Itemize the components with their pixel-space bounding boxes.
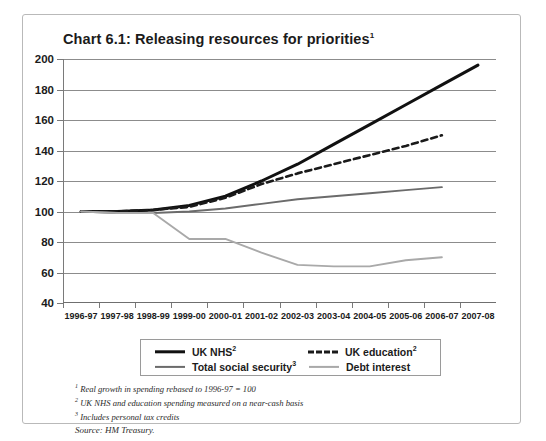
- y-axis-label: 80: [41, 236, 54, 248]
- y-axis-label: 140: [35, 145, 54, 157]
- legend-swatch-total-social-security: [155, 361, 185, 372]
- legend-swatch-debt-interest: [309, 361, 339, 372]
- series-lines: [63, 59, 496, 303]
- chart-title-text: Chart 6.1: Releasing resources for prior…: [63, 31, 370, 47]
- chart-footnotes: 1 Real growth in spending rebased to 199…: [75, 381, 303, 436]
- x-axis-label: 1996-97: [65, 311, 98, 321]
- series-line-total-social-security: [81, 187, 442, 213]
- y-axis-label: 120: [35, 175, 54, 187]
- legend-item-uk-nhs[interactable]: UK NHS2: [141, 345, 290, 358]
- footnote-2: 2 UK NHS and education spending measured…: [75, 395, 303, 409]
- x-axis-label: 1998-99: [137, 311, 170, 321]
- x-axis-label: 2005-06: [389, 311, 422, 321]
- y-axis-label: 160: [35, 114, 54, 126]
- plot-area: 4060801001201401601802001996-971997-9819…: [63, 59, 496, 303]
- x-axis-label: 2007-08: [461, 311, 494, 321]
- legend-item-uk-education[interactable]: UK education2: [290, 345, 440, 358]
- legend-swatch-uk-education: [308, 346, 338, 357]
- chart-title: Chart 6.1: Releasing resources for prior…: [63, 31, 374, 47]
- y-axis-tick: [57, 273, 63, 274]
- x-axis-label: 1999-00: [173, 311, 206, 321]
- x-axis-label: 2000-01: [209, 311, 242, 321]
- legend-row: Total social security3 Debt interest: [141, 359, 440, 374]
- series-line-debt-interest: [81, 212, 442, 267]
- x-axis-tick: [135, 303, 136, 308]
- y-axis-tick: [57, 90, 63, 91]
- legend-item-debt-interest[interactable]: Debt interest: [291, 360, 440, 373]
- chart-legend: UK NHS2 UK education2 Total social secur…: [140, 339, 441, 376]
- x-axis-tick: [424, 303, 425, 308]
- x-axis-tick: [63, 303, 64, 308]
- x-axis-label: 1997-98: [101, 311, 134, 321]
- y-axis-tick: [57, 212, 63, 213]
- y-axis-tick: [57, 242, 63, 243]
- y-axis-tick: [57, 59, 63, 60]
- y-axis-label: 60: [41, 267, 54, 279]
- chart-figure: Chart 6.1: Releasing resources for prior…: [22, 14, 521, 424]
- x-axis-tick: [352, 303, 353, 308]
- x-axis-label: 2004-05: [353, 311, 386, 321]
- x-axis-label: 2006-07: [425, 311, 458, 321]
- legend-swatch-uk-nhs: [155, 346, 185, 357]
- x-axis-tick: [243, 303, 244, 308]
- x-axis-tick: [388, 303, 389, 308]
- legend-item-total-social-security[interactable]: Total social security3: [141, 360, 291, 373]
- x-axis-tick: [316, 303, 317, 308]
- legend-row: UK NHS2 UK education2: [141, 344, 440, 359]
- x-axis-label: 2002-03: [281, 311, 314, 321]
- footnote-source: Source: HM Treasury.: [75, 425, 303, 436]
- footnote-3: 3 Includes personal tax credits: [75, 409, 303, 423]
- y-axis-label: 40: [41, 297, 54, 309]
- x-axis-tick: [280, 303, 281, 308]
- x-axis-tick: [460, 303, 461, 308]
- x-axis-tick: [207, 303, 208, 308]
- legend-label-debt-interest: Debt interest: [346, 360, 410, 373]
- y-axis-label: 180: [35, 84, 54, 96]
- x-axis-label: 2003-04: [317, 311, 350, 321]
- y-axis-tick: [57, 181, 63, 182]
- legend-label-uk-education: UK education2: [345, 345, 417, 358]
- footnote-1: 1 Real growth in spending rebased to 199…: [75, 381, 303, 395]
- y-axis-label: 100: [35, 206, 54, 218]
- x-axis-label: 2001-02: [245, 311, 278, 321]
- y-axis-label: 200: [35, 53, 54, 65]
- y-axis-tick: [57, 151, 63, 152]
- chart-title-superscript: 1: [370, 31, 375, 40]
- x-axis-tick: [171, 303, 172, 308]
- x-axis-tick: [99, 303, 100, 308]
- legend-label-total-social-security: Total social security3: [192, 360, 296, 373]
- legend-label-uk-nhs: UK NHS2: [192, 345, 236, 358]
- y-axis-tick: [57, 120, 63, 121]
- series-line-uk-education: [81, 135, 442, 211]
